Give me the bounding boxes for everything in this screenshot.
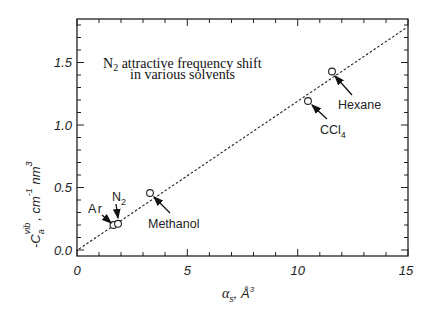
point-methanol [147,190,154,197]
chart-title-line2: in various solvents [130,67,235,82]
y-axis-label: -Cavib, cm-1 nm3 [22,161,46,248]
label-ar: Ar [88,202,104,216]
annotation-arrows [102,76,352,223]
svg-text:-Cavib, cm-1 nm3: -Cavib, cm-1 nm3 [22,161,46,248]
x-axis-ticks [77,19,408,256]
svg-text:0.0: 0.0 [54,243,73,258]
svg-text:10: 10 [290,263,305,278]
label-hexane: Hexane [338,98,381,112]
data-points [110,68,335,228]
svg-text:1.0: 1.0 [54,118,73,133]
svg-text:0.5: 0.5 [54,180,73,195]
svg-text:15: 15 [399,263,414,278]
plot-frame [77,19,408,256]
point-hexane [329,68,336,75]
label-ccl4: CCl4 [320,123,346,140]
x-tick-labels: 0 5 10 15 [73,263,414,278]
label-n2: N2 [112,190,126,207]
svg-text:5: 5 [184,263,192,278]
svg-text:0: 0 [73,263,81,278]
label-methanol: Methanol [148,217,199,231]
point-n2 [115,220,122,227]
svg-text:1.5: 1.5 [54,55,73,70]
x-axis-label: αs, Å3 [222,285,255,304]
chart: 0 5 10 15 0.0 0.5 1.0 1.5 Ar N2 Methanol… [0,0,429,318]
y-tick-labels: 0.0 0.5 1.0 1.5 [54,55,73,258]
point-ccl4 [305,98,312,105]
